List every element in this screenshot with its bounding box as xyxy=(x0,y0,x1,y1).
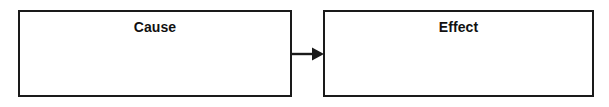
diagram-canvas: Cause Effect xyxy=(0,0,609,107)
cause-node[interactable]: Cause xyxy=(18,10,292,97)
effect-node-label: Effect xyxy=(325,19,592,35)
effect-node[interactable]: Effect xyxy=(323,10,594,97)
cause-node-label: Cause xyxy=(20,19,290,35)
arrow-right-icon xyxy=(290,43,326,65)
